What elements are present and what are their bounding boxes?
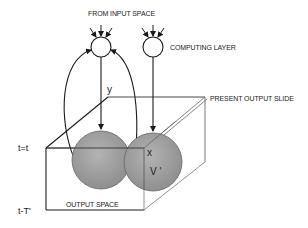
- variable-v-label: V ': [150, 166, 161, 177]
- input-arrow-icon: [106, 28, 112, 37]
- output-space-label: OUTPUT SPACE: [66, 201, 119, 208]
- variable-x-label: x: [147, 147, 152, 158]
- output-sphere-v: [124, 133, 182, 191]
- time-past-label: t-T': [18, 206, 31, 216]
- present-output-slide-label: PRESENT OUTPUT SLIDE: [210, 95, 294, 102]
- variable-y-label: y: [107, 84, 112, 95]
- neuron-2: [142, 25, 164, 57]
- neuron-1-circle: [91, 37, 111, 57]
- input-arrow-icon: [158, 28, 164, 37]
- neuron-2-circle: [143, 37, 163, 57]
- computing-layer-label: COMPUTING LAYER: [170, 44, 236, 51]
- input-space-label: FROM INPUT SPACE: [88, 10, 155, 17]
- input-arrow-icon: [142, 28, 148, 37]
- output-sphere-y: [72, 131, 130, 189]
- time-now-label: t=t: [18, 143, 29, 153]
- neural-output-space-diagram: FROM INPUT SPACE COMPUTING LAYER: [0, 0, 308, 228]
- neuron-1: [90, 25, 112, 57]
- input-arrow-icon: [90, 28, 96, 37]
